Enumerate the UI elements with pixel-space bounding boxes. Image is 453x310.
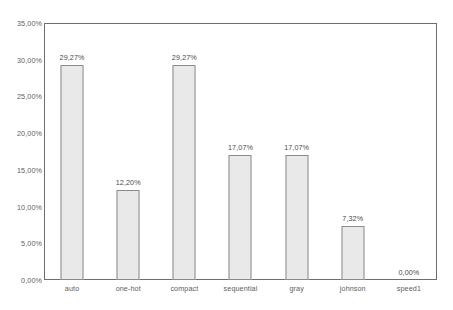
- bar-group: 12,20%: [100, 23, 156, 280]
- x-axis-tick-label: auto: [65, 284, 79, 293]
- x-axis-tick-label: gray: [289, 284, 303, 293]
- bar[interactable]: [229, 155, 252, 280]
- x-axis-tick-label: johnson: [340, 284, 366, 293]
- bar-chart: 0,00%5,00%10,00%15,00%20,00%25,00%30,00%…: [0, 0, 453, 310]
- bar-value-label: 29,27%: [172, 53, 197, 62]
- bar-value-label: 0,00%: [398, 268, 419, 277]
- y-axis-tick-label: 15,00%: [0, 165, 42, 174]
- x-axis-tick-label: one-hot: [116, 284, 141, 293]
- x-axis-tick-label: speed1: [397, 284, 421, 293]
- y-axis-tick-label: 25,00%: [0, 92, 42, 101]
- bar-group: 17,07%: [269, 23, 325, 280]
- y-axis-tick-label: 20,00%: [0, 129, 42, 138]
- bar[interactable]: [117, 190, 140, 280]
- bar-group: 17,07%: [212, 23, 268, 280]
- bar-value-label: 12,20%: [116, 178, 141, 187]
- plot-area: 29,27%12,20%29,27%17,07%17,07%7,32%0,00%: [44, 23, 437, 280]
- bar-value-label: 29,27%: [60, 53, 85, 62]
- bar-group: 7,32%: [325, 23, 381, 280]
- bar-value-label: 17,07%: [284, 143, 309, 152]
- bar[interactable]: [61, 65, 84, 280]
- y-axis-tick-label: 10,00%: [0, 202, 42, 211]
- y-axis: 0,00%5,00%10,00%15,00%20,00%25,00%30,00%…: [0, 0, 42, 310]
- bar[interactable]: [341, 226, 364, 280]
- bar-group: 29,27%: [156, 23, 212, 280]
- bar-group: 29,27%: [44, 23, 100, 280]
- y-axis-tick-label: 5,00%: [0, 239, 42, 248]
- bar[interactable]: [173, 65, 196, 280]
- bar[interactable]: [285, 155, 308, 280]
- y-axis-tick-label: 0,00%: [0, 276, 42, 285]
- bar-value-label: 7,32%: [342, 214, 363, 223]
- x-axis-tick-label: sequential: [224, 284, 258, 293]
- x-axis-tick-label: compact: [170, 284, 198, 293]
- bar-value-label: 17,07%: [228, 143, 253, 152]
- bar-group: 0,00%: [381, 23, 437, 280]
- y-axis-tick-label: 30,00%: [0, 55, 42, 64]
- y-axis-tick-label: 35,00%: [0, 19, 42, 28]
